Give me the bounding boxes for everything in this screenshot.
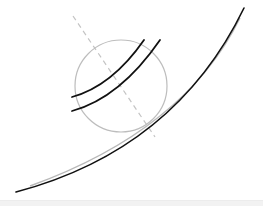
diagram-canvas <box>0 0 263 206</box>
guide-curve <box>30 18 240 186</box>
footer-strip <box>0 200 263 206</box>
axis-dashed-line <box>73 16 155 137</box>
arc-lower <box>72 40 160 111</box>
